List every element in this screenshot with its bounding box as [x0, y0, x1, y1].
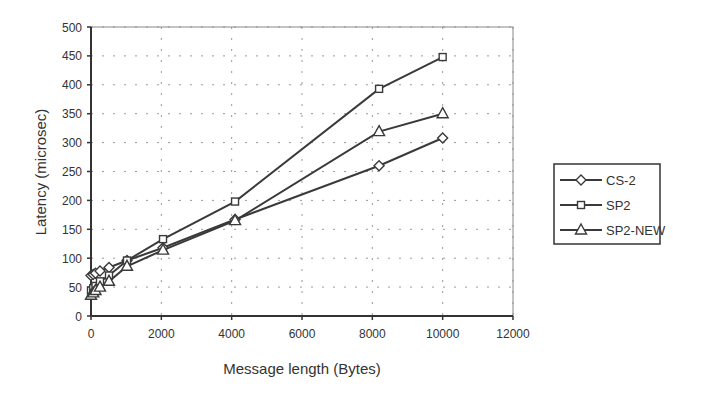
x-tick-label: 12000 [496, 327, 530, 341]
y-tick-label: 300 [62, 136, 82, 150]
series-line [91, 114, 443, 295]
y-tick-label: 500 [62, 21, 82, 35]
x-tick-label: 4000 [218, 327, 245, 341]
triangle-marker-icon [437, 108, 448, 118]
square-marker-icon [578, 202, 585, 209]
x-axis-label: Message length (Bytes) [223, 360, 381, 377]
y-tick-label: 150 [62, 223, 82, 237]
y-tick-label: 350 [62, 107, 82, 121]
x-tick-label: 10000 [426, 327, 460, 341]
legend-label: SP2-NEW [606, 223, 666, 238]
legend: CS-2SP2SP2-NEW [554, 164, 666, 244]
x-tick-label: 6000 [289, 327, 316, 341]
y-tick-label: 100 [62, 252, 82, 266]
square-marker-icon [376, 85, 383, 92]
legend-label: SP2 [606, 198, 631, 213]
series-sp2-new [86, 108, 449, 299]
series-sp2 [88, 54, 447, 295]
x-tick-label: 2000 [148, 327, 175, 341]
square-marker-icon [160, 236, 167, 243]
x-tick-label: 8000 [359, 327, 386, 341]
axes: 0501001502002503003504004505000200040006… [62, 21, 530, 342]
y-tick-label: 450 [62, 49, 82, 63]
grid-lines [91, 27, 513, 316]
y-tick-label: 50 [69, 281, 83, 295]
diamond-marker-icon [438, 133, 448, 143]
x-tick-label: 0 [88, 327, 95, 341]
y-tick-label: 0 [75, 310, 82, 324]
line-chart: 0501001502002503003504004505000200040006… [0, 0, 726, 405]
square-marker-icon [232, 198, 239, 205]
y-axis-label: Latency (microsec) [32, 109, 49, 236]
diamond-marker-icon [374, 161, 384, 171]
series-cs-2 [86, 133, 448, 281]
data-series [86, 54, 449, 300]
y-tick-label: 200 [62, 194, 82, 208]
y-tick-label: 400 [62, 78, 82, 92]
y-tick-label: 250 [62, 165, 82, 179]
legend-label: CS-2 [606, 173, 636, 188]
square-marker-icon [439, 54, 446, 61]
series-line [91, 138, 443, 276]
